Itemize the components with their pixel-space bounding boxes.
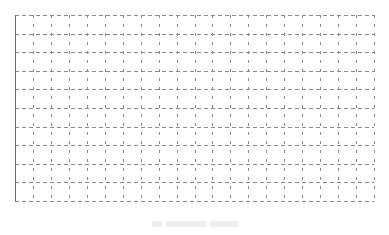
- caption-glyph: [210, 221, 238, 227]
- chart-plot-area: [0, 0, 389, 235]
- chart-caption: [0, 218, 389, 230]
- caption-glyph: [152, 221, 162, 227]
- caption-glyph: [166, 221, 206, 227]
